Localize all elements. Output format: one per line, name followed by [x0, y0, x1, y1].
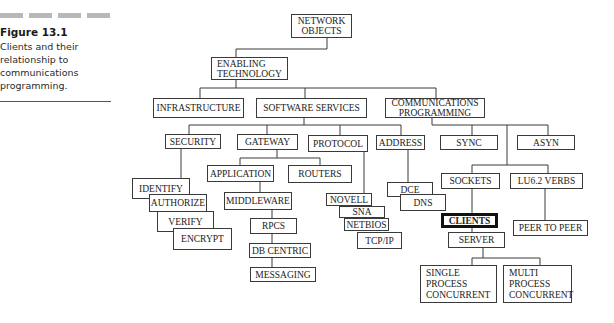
node-lu62-verbs: LU6.2 VERBS: [510, 173, 583, 189]
node-single-process-concurrent: SINGLE PROCESS CONCURRENT: [420, 265, 497, 303]
node-routers: ROUTERS: [288, 165, 352, 183]
node-communications-programming: COMMUNICATIONS PROGRAMMING: [385, 98, 485, 118]
node-tcp-ip: TCP/IP: [357, 232, 402, 249]
node-authorize: AUTHORIZE: [149, 194, 207, 212]
node-network-objects: NETWORK OBJECTS: [291, 14, 352, 38]
node-infrastructure: INFRASTRUCTURE: [153, 98, 244, 118]
node-gateway: GATEWAY: [237, 134, 298, 150]
node-security: SECURITY: [165, 134, 221, 149]
node-rpcs: RPCS: [250, 218, 297, 234]
node-peer-to-peer: PEER TO PEER: [513, 220, 588, 236]
node-address: ADDRESS: [376, 135, 425, 150]
node-software-services: SOFTWARE SERVICES: [256, 98, 367, 118]
node-novell: NOVELL: [326, 193, 372, 206]
node-messaging: MESSAGING: [250, 267, 316, 282]
node-sockets: SOCKETS: [441, 173, 500, 189]
node-enabling-technology: ENABLING TECHNOLOGY: [211, 57, 288, 80]
node-middleware: MIDDLEWARE: [224, 192, 292, 210]
node-sync: SYNC: [440, 135, 498, 150]
node-server: SERVER: [448, 232, 505, 248]
node-netbios: NETBIOS: [344, 218, 389, 231]
node-application: APPLICATION: [207, 165, 274, 182]
node-db-centric: DB CENTRIC: [249, 243, 311, 258]
node-asyn: ASYN: [517, 135, 575, 150]
node-clients: CLIENTS: [441, 213, 498, 228]
node-sna: SNA: [339, 206, 385, 218]
node-multi-process-concurrent: MULTI PROCESS CONCURRENT: [503, 265, 572, 303]
node-protocol: PROTOCOL: [308, 135, 368, 152]
node-dns: DNS: [400, 194, 446, 211]
node-encrypt: ENCRYPT: [173, 228, 232, 250]
